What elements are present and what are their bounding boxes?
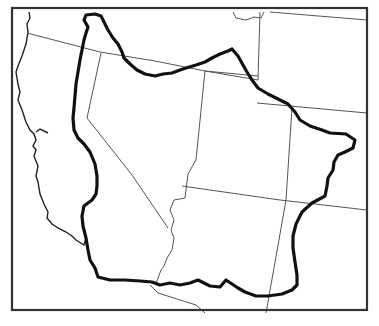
map-canvas xyxy=(0,0,379,326)
